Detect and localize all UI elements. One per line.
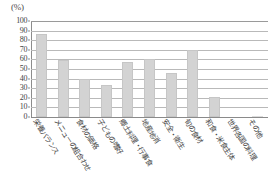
y-axis-tick-label: 90 — [20, 27, 27, 35]
y-axis-tick-mark — [28, 40, 30, 41]
y-axis-tick-label: 20 — [20, 94, 27, 102]
y-axis-tick-mark — [28, 21, 30, 22]
y-axis-tick-label: 40 — [20, 75, 27, 83]
x-axis-label: 安全・衛生 — [160, 118, 185, 150]
bar — [36, 34, 47, 117]
y-axis-tick-label: 100 — [16, 17, 27, 25]
bar — [79, 79, 90, 117]
bar — [187, 50, 198, 117]
y-axis-tick-mark — [28, 30, 30, 31]
y-axis-tick-label: 10 — [20, 103, 27, 111]
y-axis-tick-mark — [28, 97, 30, 98]
y-axis-tick-label: 80 — [20, 36, 27, 44]
plot-area — [31, 21, 268, 117]
y-axis-tick-label: 50 — [20, 65, 27, 73]
x-axis-label: 地産地消 — [139, 118, 160, 145]
bar — [101, 85, 112, 117]
y-axis-tick-mark — [28, 59, 30, 60]
y-axis-tick-label: 70 — [20, 46, 27, 54]
y-axis-tick-mark — [28, 88, 30, 89]
bar — [209, 97, 220, 117]
y-axis-tick-mark — [28, 49, 30, 50]
y-axis-tick-labels: 1009080706050403020100 — [0, 21, 30, 117]
x-axis-label: その他 — [247, 118, 265, 139]
y-axis-tick-mark — [28, 78, 30, 79]
x-axis-category-labels: 栄養バランスメニューの組合わせ食材の価格子どもの嗜好郷土料理・行事食地産地消安全… — [31, 118, 268, 196]
bar-chart: (%) 1009080706050403020100 栄養バランスメニューの組合… — [0, 0, 273, 196]
y-axis-tick-mark — [28, 69, 30, 70]
x-axis-label: 旬の食材 — [182, 118, 203, 145]
bars-layer — [31, 21, 268, 117]
y-axis-tick-mark — [28, 117, 30, 118]
bar — [144, 59, 155, 117]
bar — [122, 62, 133, 117]
y-axis-tick-label: 0 — [23, 113, 27, 121]
y-axis-tick-label: 60 — [20, 55, 27, 63]
y-axis-tick-label: 30 — [20, 84, 27, 92]
bar — [58, 60, 69, 117]
bar — [166, 73, 177, 117]
y-axis-tick-mark — [28, 107, 30, 108]
y-axis-unit-label: (%) — [11, 2, 24, 12]
